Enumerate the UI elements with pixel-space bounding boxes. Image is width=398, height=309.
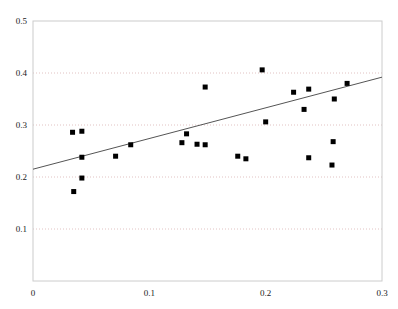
data-point [113,154,118,159]
data-point [79,129,84,134]
data-point [329,163,334,168]
data-point [243,156,248,161]
trendline [33,77,382,169]
data-point-group [70,67,350,194]
data-point [345,81,350,86]
plot-frame [33,21,382,281]
data-point [184,131,189,136]
data-point [331,139,336,144]
data-point [79,176,84,181]
data-point [128,142,133,147]
data-point [291,90,296,95]
x-tick-label: 0.2 [260,288,271,298]
data-point [260,67,265,72]
x-tick-label: 0.1 [144,288,155,298]
plot-canvas [0,0,398,309]
y-tick-label: 0.3 [0,120,27,130]
data-point [70,130,75,135]
x-tick-label: 0.3 [376,288,387,298]
y-tick-label: 0.1 [0,224,27,234]
y-tick-label: 0.5 [0,16,27,26]
data-point [179,140,184,145]
data-point [302,107,307,112]
data-point [306,155,311,160]
data-point [263,119,268,124]
data-point [195,142,200,147]
x-tick-label: 0 [31,288,36,298]
data-point [235,154,240,159]
data-point [203,85,208,90]
data-point [306,87,311,92]
data-point [79,155,84,160]
y-tick-label: 0.2 [0,172,27,182]
gridline-group [33,73,382,229]
data-point [71,189,76,194]
data-point [332,97,337,102]
y-tick-label: 0.4 [0,68,27,78]
scatter-plot-figure: 00.10.20.30.40.5 00.10.20.3 [0,0,398,309]
data-point [203,142,208,147]
